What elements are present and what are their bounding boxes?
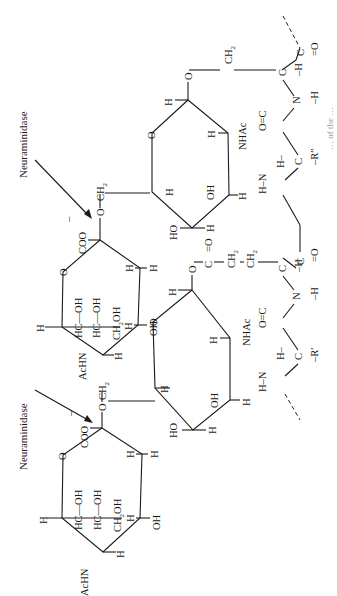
svg-text:O: O bbox=[95, 208, 106, 216]
svg-text:–R′: –R′ bbox=[309, 347, 320, 363]
svg-text:O: O bbox=[187, 265, 198, 273]
svg-text:COO: COO bbox=[77, 231, 88, 254]
svg-text:H: H bbox=[38, 516, 49, 524]
svg-text:H–N: H–N bbox=[257, 173, 268, 194]
arrow-lower-shaft bbox=[35, 390, 88, 420]
svg-text:H: H bbox=[206, 130, 217, 138]
galnac-upper: O H O CH2 H NHAc OH H H HO H bbox=[146, 45, 276, 240]
svg-text:H: H bbox=[237, 192, 248, 200]
svg-text:H: H bbox=[149, 450, 160, 458]
svg-text:–H: –H bbox=[293, 259, 304, 273]
svg-text:NHAc: NHAc bbox=[241, 318, 252, 346]
sialic-acid-lower: O CH2 COO – O H H H OH HC—OH HC—OH CH2OH… bbox=[38, 381, 162, 596]
svg-text:N: N bbox=[291, 96, 302, 104]
svg-text:O: O bbox=[97, 403, 108, 411]
svg-text:H: H bbox=[164, 188, 175, 196]
svg-text:CH2: CH2 bbox=[245, 249, 259, 268]
svg-text:H: H bbox=[113, 352, 124, 360]
svg-text:–: – bbox=[65, 410, 76, 417]
svg-text:–H: –H bbox=[309, 287, 320, 301]
svg-text:O: O bbox=[183, 72, 194, 80]
svg-text:AcHN: AcHN bbox=[79, 568, 90, 596]
svg-text:H: H bbox=[159, 385, 170, 393]
svg-text:–H: –H bbox=[293, 63, 304, 77]
sialic-acid-upper: O CH2 COO – O H H H OH HC—OH HC—OH CH2OH… bbox=[35, 182, 159, 380]
svg-text:O: O bbox=[148, 318, 159, 326]
svg-text:AcHN: AcHN bbox=[77, 352, 88, 380]
svg-text:NHAc: NHAc bbox=[237, 122, 248, 150]
svg-text:HC—OH: HC—OH bbox=[73, 489, 84, 530]
svg-text:H: H bbox=[148, 264, 159, 272]
svg-text:H: H bbox=[163, 98, 174, 106]
caption-fragment: … of the … bbox=[325, 107, 335, 150]
svg-text:C: C bbox=[277, 265, 288, 272]
svg-text:H: H bbox=[207, 426, 218, 434]
galnac-lower: O H O C =O CH2 CH2 H NHAc OH H HO H H bbox=[148, 238, 278, 438]
svg-text:HC—OH: HC—OH bbox=[92, 489, 103, 530]
svg-text:H: H bbox=[125, 450, 136, 458]
svg-text:COO: COO bbox=[79, 425, 90, 448]
svg-text:H–: H– bbox=[275, 346, 286, 360]
svg-text:H: H bbox=[35, 324, 46, 332]
svg-text:CH2OH: CH2OH bbox=[111, 306, 125, 340]
svg-text:HO: HO bbox=[168, 224, 179, 240]
svg-text:H: H bbox=[208, 336, 219, 344]
svg-text:H: H bbox=[115, 550, 126, 558]
svg-text:H–N: H–N bbox=[257, 371, 268, 392]
svg-text:CH2: CH2 bbox=[97, 381, 111, 400]
svg-text:H–: H– bbox=[275, 154, 286, 168]
svg-text:C: C bbox=[293, 158, 304, 165]
svg-text:Neuraminidase: Neuraminidase bbox=[17, 111, 29, 178]
svg-text:O: O bbox=[57, 452, 68, 460]
svg-text:=O: =O bbox=[203, 238, 214, 252]
svg-text:H: H bbox=[124, 264, 135, 272]
svg-text:C: C bbox=[203, 261, 214, 268]
svg-text:HC—OH: HC—OH bbox=[73, 297, 84, 338]
svg-text:CH2: CH2 bbox=[95, 182, 109, 201]
glycoprotein-structure-diagram: Neuraminidase Neuraminidase O CH2 COO – … bbox=[0, 0, 337, 596]
svg-text:C: C bbox=[277, 69, 288, 76]
svg-text:–H: –H bbox=[309, 91, 320, 105]
svg-text:H: H bbox=[241, 398, 252, 406]
svg-text:C: C bbox=[295, 49, 306, 56]
svg-text:–: – bbox=[63, 216, 74, 223]
svg-text:HO: HO bbox=[168, 422, 179, 438]
svg-text:N: N bbox=[291, 292, 302, 300]
svg-text:OH: OH bbox=[205, 184, 216, 200]
svg-text:–R″: –R″ bbox=[309, 148, 320, 166]
svg-text:=O: =O bbox=[309, 42, 320, 56]
svg-text:OH: OH bbox=[151, 514, 162, 530]
svg-text:HC—OH: HC—OH bbox=[91, 297, 102, 338]
svg-text:CH2: CH2 bbox=[223, 45, 237, 64]
svg-text:=O: =O bbox=[309, 248, 320, 262]
arrow-upper-head-icon bbox=[84, 209, 92, 219]
arrow-upper-shaft bbox=[35, 160, 88, 215]
svg-text:O: O bbox=[146, 131, 157, 139]
svg-text:O=C: O=C bbox=[257, 110, 268, 131]
svg-text:C: C bbox=[293, 353, 304, 360]
svg-text:CH2: CH2 bbox=[226, 249, 240, 268]
peptide-backbone: C =O C –H N –H O=C H– C –R″ H–N C =O C –… bbox=[257, 16, 320, 420]
svg-text:Neuraminidase: Neuraminidase bbox=[17, 403, 29, 470]
svg-text:OH: OH bbox=[209, 392, 220, 408]
neuraminidase-label-upper: Neuraminidase bbox=[17, 111, 29, 178]
neuraminidase-label-lower: Neuraminidase bbox=[17, 403, 29, 470]
svg-text:H: H bbox=[125, 514, 136, 522]
svg-text:H: H bbox=[205, 224, 216, 232]
svg-text:O: O bbox=[58, 268, 69, 276]
arrow-lower-head-icon bbox=[84, 415, 93, 423]
svg-text:O=C: O=C bbox=[257, 307, 268, 328]
svg-text:H: H bbox=[167, 288, 178, 296]
svg-text:CH2OH: CH2OH bbox=[112, 498, 126, 532]
